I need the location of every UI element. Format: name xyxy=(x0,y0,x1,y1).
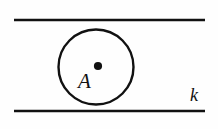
center-point-dot xyxy=(94,62,102,70)
geometry-figure: A k xyxy=(0,0,218,129)
figure-canvas xyxy=(0,0,218,129)
line-label-k: k xyxy=(190,86,198,104)
center-point-label: A xyxy=(78,71,91,92)
